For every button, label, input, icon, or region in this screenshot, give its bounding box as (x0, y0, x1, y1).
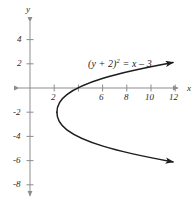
x-tick-label-10: 10 (145, 93, 154, 102)
equation-prefix: (y + 2) (88, 58, 117, 69)
y-tick-label-minus-8: -8 (13, 180, 21, 189)
plot-canvas (0, 0, 194, 203)
y-axis (27, 22, 34, 196)
y-tick-label-2: 2 (17, 59, 22, 68)
parabola-upper-branch (57, 63, 173, 113)
y-tick-label-minus-6: -6 (13, 156, 21, 165)
curve-equation-label: (y + 2)2 = x – 3 (88, 58, 152, 69)
parabola-curve (57, 63, 173, 162)
x-axis (19, 85, 178, 92)
x-tick-label-6: 6 (99, 93, 104, 102)
x-axis-label: x (187, 84, 191, 93)
parabola-lower-branch (57, 112, 173, 162)
x-tick-label-8: 8 (124, 93, 129, 102)
x-tick-label-2: 2 (51, 93, 56, 102)
y-axis-label: y (26, 5, 30, 14)
graph-figure: y x 2 6 8 10 12 4 2 -2 -4 -6 -8 (y + 2)2… (0, 0, 194, 203)
equation-suffix: = x – 3 (120, 58, 152, 69)
x-tick-label-12: 12 (169, 93, 178, 102)
y-tick-label-minus-2: -2 (13, 108, 21, 117)
y-tick-label-minus-4: -4 (13, 132, 21, 141)
y-tick-label-4: 4 (17, 35, 22, 44)
